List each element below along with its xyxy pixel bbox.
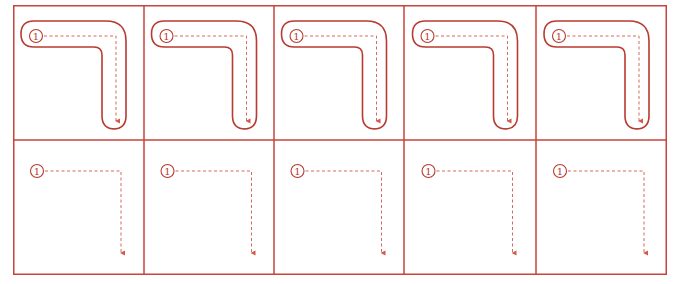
stroke-direction-arrow (44, 36, 116, 121)
stroke-number-label: 1 (294, 166, 300, 177)
tracing-cell: 1 (152, 21, 257, 129)
stroke-direction-arrow (436, 36, 508, 121)
stroke-direction-arrow (45, 171, 121, 253)
practice-cell: 1 (422, 165, 513, 254)
stroke-number-label: 1 (425, 166, 431, 177)
stroke-number-label: 1 (163, 31, 169, 42)
stroke-direction-arrow (176, 171, 252, 253)
tracing-cell: 1 (413, 21, 518, 129)
stroke-number-label: 1 (33, 31, 39, 42)
stroke-number-label: 1 (293, 31, 299, 42)
stroke-number-label: 1 (164, 166, 170, 177)
stroke-direction-arrow (568, 171, 644, 253)
tracing-cell: 1 (21, 21, 126, 129)
stroke-number-label: 1 (557, 166, 563, 177)
practice-cell: 1 (554, 165, 645, 254)
stroke-number-label: 1 (424, 31, 430, 42)
practice-cell: 1 (161, 165, 252, 254)
stroke-number-label: 1 (556, 31, 562, 42)
worksheet-grid: 1111111111 (13, 5, 667, 275)
stroke-direction-arrow (306, 171, 382, 253)
stroke-direction-arrow (437, 171, 513, 253)
tracing-cell: 1 (282, 21, 387, 129)
stroke-number-label: 1 (34, 166, 40, 177)
stroke-direction-arrow (567, 36, 639, 121)
stroke-direction-arrow (175, 36, 247, 121)
tracing-cell: 1 (544, 21, 649, 129)
practice-cell: 1 (31, 165, 122, 254)
stroke-practice-worksheet: 1111111111 (13, 5, 667, 275)
practice-cell: 1 (291, 165, 382, 254)
stroke-direction-arrow (305, 36, 377, 121)
